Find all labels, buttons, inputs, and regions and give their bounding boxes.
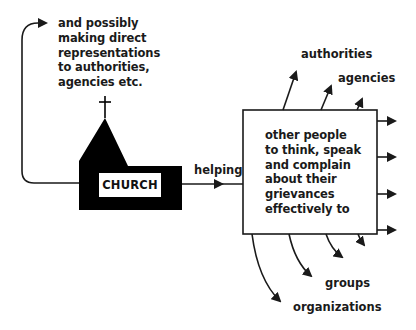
agencies-label: agencies — [338, 71, 395, 85]
target-box-text: other people to think, speak and complai… — [265, 128, 361, 217]
organizations-label: organizations — [293, 300, 382, 314]
box-line: and complain — [265, 158, 361, 173]
box-line: other people — [265, 128, 361, 143]
authorities-label: authorities — [301, 47, 372, 61]
helping-label: helping — [194, 163, 243, 177]
church-label: CHURCH — [99, 173, 161, 197]
feedback-note: and possibly making direct representatio… — [58, 16, 160, 90]
groups-label: groups — [325, 276, 370, 290]
diagram-canvas: CHURCH helping and possibly making direc… — [0, 0, 416, 330]
note-line: and possibly — [58, 16, 160, 31]
bottom-output-arrows — [252, 234, 364, 301]
note-line: representations — [58, 46, 160, 61]
box-line: effectively to — [265, 202, 361, 217]
box-line: to think, speak — [265, 143, 361, 158]
note-line: agencies etc. — [58, 75, 160, 90]
box-line: grievances — [265, 187, 361, 202]
note-line: making direct — [58, 31, 160, 46]
note-line: to authorities, — [58, 60, 160, 75]
right-output-arrows — [377, 121, 395, 230]
box-line: about their — [265, 172, 361, 187]
